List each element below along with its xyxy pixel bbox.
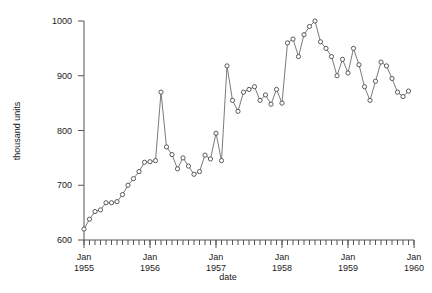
data-point-marker — [373, 79, 377, 83]
data-point-marker — [214, 131, 218, 135]
data-point-marker — [274, 87, 278, 91]
data-point-marker — [357, 63, 361, 67]
data-point-marker — [126, 183, 130, 187]
data-point-marker — [401, 94, 405, 98]
x-tick-label: 1956 — [140, 263, 160, 273]
data-point-marker — [318, 40, 322, 44]
data-point-marker — [263, 93, 267, 97]
data-point-marker — [395, 90, 399, 94]
data-point-marker — [406, 89, 410, 93]
data-point-marker — [351, 46, 355, 50]
line-chart: 6007008009001000 thousand units Jan1955J… — [0, 0, 432, 293]
data-point-marker — [82, 227, 86, 231]
data-point-marker — [302, 33, 306, 37]
x-axis-title: date — [219, 272, 237, 282]
y-tick-label: 800 — [57, 126, 72, 136]
data-point-marker — [241, 90, 245, 94]
x-tick-label: 1958 — [272, 263, 292, 273]
x-axis: Jan1955Jan1956Jan1957Jan1958Jan1959Jan19… — [74, 240, 424, 282]
data-point-marker — [384, 64, 388, 68]
data-point-marker — [296, 54, 300, 58]
y-axis-ticks — [78, 21, 84, 240]
data-point-marker — [291, 37, 295, 41]
data-point-marker — [324, 46, 328, 50]
data-point-marker — [186, 164, 190, 168]
series-line-housing — [84, 21, 409, 229]
data-point-marker — [269, 102, 273, 106]
y-tick-label: 600 — [57, 235, 72, 245]
x-tick-label: 1959 — [338, 263, 358, 273]
data-point-marker — [208, 157, 212, 161]
data-point-marker — [203, 153, 207, 157]
data-point-marker — [98, 208, 102, 212]
series-markers — [82, 19, 411, 231]
data-point-marker — [258, 98, 262, 102]
data-point-marker — [148, 160, 152, 164]
x-axis-tick-labels: Jan1955Jan1956Jan1957Jan1958Jan1959Jan19… — [74, 252, 424, 273]
data-point-marker — [104, 201, 108, 205]
data-point-marker — [87, 217, 91, 221]
data-point-marker — [192, 172, 196, 176]
x-tick-label: Jan — [209, 252, 224, 262]
data-point-marker — [313, 19, 317, 23]
y-axis-tick-labels: 6007008009001000 — [52, 16, 72, 245]
data-point-marker — [131, 177, 135, 181]
data-point-marker — [159, 90, 163, 94]
data-point-marker — [368, 98, 372, 102]
data-point-marker — [181, 156, 185, 160]
x-tick-label: Jan — [407, 252, 422, 262]
data-point-marker — [197, 169, 201, 173]
data-point-marker — [225, 64, 229, 68]
x-axis-minor-ticks — [84, 240, 414, 245]
data-point-marker — [236, 109, 240, 113]
x-tick-label: Jan — [77, 252, 92, 262]
data-point-marker — [142, 160, 146, 164]
data-point-marker — [329, 54, 333, 58]
y-axis-title: thousand units — [12, 101, 22, 160]
chart-container: 6007008009001000 thousand units Jan1955J… — [0, 0, 432, 293]
data-point-marker — [346, 71, 350, 75]
y-tick-label: 1000 — [52, 16, 72, 26]
data-point-marker — [175, 167, 179, 171]
data-point-marker — [247, 87, 251, 91]
x-tick-label: 1955 — [74, 263, 94, 273]
x-tick-label: 1960 — [404, 263, 424, 273]
data-point-marker — [230, 98, 234, 102]
data-point-marker — [362, 85, 366, 89]
data-point-marker — [153, 159, 157, 163]
y-tick-label: 900 — [57, 71, 72, 81]
data-point-marker — [335, 74, 339, 78]
data-point-marker — [379, 60, 383, 64]
data-point-marker — [285, 41, 289, 45]
x-tick-label: Jan — [275, 252, 290, 262]
x-tick-label: Jan — [341, 252, 356, 262]
data-point-marker — [109, 201, 113, 205]
data-point-marker — [137, 169, 141, 173]
data-point-marker — [307, 24, 311, 28]
data-point-marker — [280, 101, 284, 105]
data-point-marker — [219, 159, 223, 163]
data-point-marker — [115, 200, 119, 204]
data-point-marker — [340, 57, 344, 61]
data-point-marker — [252, 85, 256, 89]
data-point-marker — [170, 152, 174, 156]
data-point-marker — [390, 76, 394, 80]
y-axis: 6007008009001000 thousand units — [12, 16, 84, 245]
data-point-marker — [93, 209, 97, 213]
x-tick-label: Jan — [143, 252, 158, 262]
data-point-marker — [120, 192, 124, 196]
data-series — [82, 19, 411, 231]
data-point-marker — [164, 145, 168, 149]
y-tick-label: 700 — [57, 180, 72, 190]
